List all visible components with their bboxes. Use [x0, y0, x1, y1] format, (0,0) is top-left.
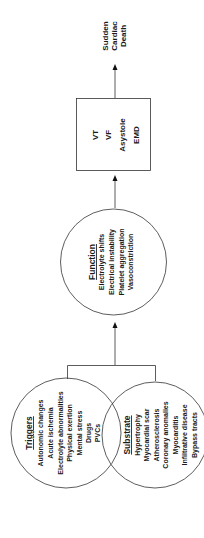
- diagram-canvas: Sudden Cardiac Death VT VF Asystole EMD …: [0, 0, 204, 538]
- arrhythmia-box: VT VF Asystole EMD: [77, 99, 151, 171]
- substrate-item: Myocarditis: [172, 415, 180, 454]
- outcome-line-3: Death: [119, 25, 128, 47]
- function-item: Electrical instability: [108, 229, 116, 295]
- outcome-label: Sudden Cardiac Death: [101, 21, 128, 51]
- function-title: Function: [87, 244, 97, 280]
- triggers-item: Physical exertion: [66, 404, 74, 462]
- triggers-item: Mental stress: [76, 411, 83, 456]
- substrate-title: Substrate: [122, 415, 132, 454]
- function-item: Vasoconstriction: [127, 234, 134, 290]
- substrate-circle: Substrate Hypertrophy Myocardial scar At…: [102, 382, 204, 488]
- arrhythmia-item-asystole: Asystole: [118, 118, 127, 152]
- outcome-line-1: Sudden: [101, 21, 110, 50]
- arrhythmia-item-emd: EMD: [132, 126, 141, 144]
- triggers-circle: Triggers Autonomic changes Acute ischemi…: [11, 378, 121, 488]
- substrate-item: Hypertrophy: [134, 414, 142, 456]
- arrow-box-to-outcome: [113, 64, 118, 98]
- triggers-item: Drugs: [85, 423, 93, 443]
- arrowhead-icon: [113, 322, 118, 328]
- arrowhead-icon: [113, 175, 118, 181]
- connector-to-function: [68, 322, 156, 381]
- triggers-item: Acute ischemia: [47, 407, 54, 458]
- substrate-item: Atherosclerosis: [153, 408, 160, 461]
- substrate-item: Coronary anomalies: [162, 401, 170, 468]
- triggers-item: Autonomic changes: [37, 399, 45, 466]
- triggers-title: Triggers: [24, 416, 34, 450]
- arrhythmia-item-vf: VF: [104, 130, 113, 140]
- substrate-item: Bypass tracts: [191, 412, 199, 458]
- triggers-item: PVCs: [94, 424, 101, 442]
- function-item: Electrolyte shifts: [98, 234, 106, 291]
- function-circle: Function Electrolyte shifts Electrical i…: [61, 209, 167, 315]
- function-item: Platelet aggregation: [118, 229, 126, 296]
- substrate-item: Infiltrative disease: [181, 404, 188, 465]
- outcome-line-2: Cardiac: [110, 21, 119, 51]
- substrate-item: Myocardial scar: [143, 408, 151, 461]
- arrowhead-icon: [113, 64, 118, 70]
- bracket-connector: [68, 366, 156, 382]
- arrhythmia-item-vt: VT: [91, 130, 100, 140]
- arrow-function-to-box: [113, 175, 118, 208]
- triggers-item: Electrolyte abnormalities: [57, 391, 65, 474]
